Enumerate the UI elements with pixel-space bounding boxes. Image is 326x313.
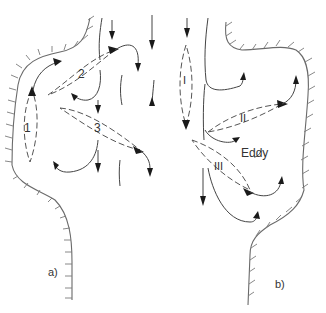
vortex-2: 2 xyxy=(48,45,141,95)
vortex-1: 1 xyxy=(24,58,62,162)
vortex-2-label: 2 xyxy=(78,67,85,81)
panel-b: I II III xyxy=(180,18,315,305)
vortex-3-label: 3 xyxy=(94,121,101,135)
vortex-III-label: III xyxy=(214,160,223,172)
vortex-I: I xyxy=(180,18,192,130)
vortex-1-label: 1 xyxy=(24,121,31,135)
vortex-II: II xyxy=(208,75,299,132)
vortex-II-label: II xyxy=(240,112,246,124)
panel-b-label: b) xyxy=(275,278,285,290)
vortex-3: 3 xyxy=(60,108,153,177)
vortex-I-label: I xyxy=(183,74,186,86)
panel-a-label: a) xyxy=(48,266,58,278)
flow-diagram: 1 2 3 xyxy=(0,0,326,313)
panel-a-wall xyxy=(5,16,94,300)
panel-a-streamlines xyxy=(53,15,155,186)
eddy-label: Eddy xyxy=(241,146,268,160)
panel-b-streamlines xyxy=(200,18,261,222)
panel-a: 1 2 3 xyxy=(5,15,155,300)
panel-b-wall xyxy=(226,22,315,305)
vortex-III: III xyxy=(192,140,284,196)
